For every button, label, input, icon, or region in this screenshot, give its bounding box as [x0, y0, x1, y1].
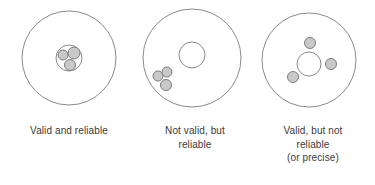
target-not-valid-but-reliable [143, 9, 241, 107]
shot-dot-1 [153, 71, 163, 81]
shot-dot-1 [305, 38, 316, 49]
shot-dot-3 [288, 72, 299, 83]
validity-reliability-figure: Valid and reliable Not valid, but reliab… [0, 0, 375, 185]
target-valid-and-reliable [22, 11, 116, 105]
shot-dot-3 [161, 80, 172, 91]
target-outer-ring [22, 11, 116, 105]
target-outer-ring [262, 13, 356, 107]
target-inner-ring [179, 42, 205, 68]
target-valid-but-not-reliable [262, 13, 356, 107]
shot-dot-1 [58, 50, 68, 60]
shot-dot-3 [65, 60, 76, 71]
shot-dot-2 [68, 47, 80, 59]
target-caption-valid-and-reliable: Valid and reliable [6, 124, 132, 138]
target-caption-not-valid-but-reliable: Not valid, but reliable [136, 124, 254, 151]
shot-dot-2 [326, 59, 337, 70]
target-caption-valid-but-not-reliable: Valid, but not reliable (or precise) [252, 124, 374, 165]
target-inner-ring [297, 52, 321, 76]
shot-dot-2 [162, 67, 172, 77]
target-outer-ring [143, 9, 241, 107]
